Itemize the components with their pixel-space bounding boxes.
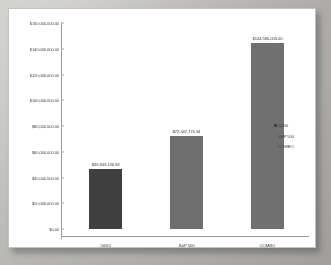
y-axis-tick-label: $100,000,000.00 [30, 98, 59, 103]
y-axis-tick-label: $40,000,000.00 [32, 175, 59, 180]
y-axis-tick-mark [61, 126, 64, 127]
legend-item[interactable]: 50/50 [274, 123, 310, 128]
bar-50-50[interactable] [89, 169, 122, 229]
legend-swatch-icon [274, 145, 277, 148]
bar-group: $72,447,176.34S&P 500 [170, 23, 203, 239]
y-axis-tick-label: $120,000,000.00 [30, 72, 59, 77]
x-axis-category-label: S&P 500 [178, 243, 194, 248]
y-axis-tick-label: $160,000,000.00 [30, 21, 59, 26]
plot-area: $46,943,136.5950/50$72,447,176.34S&P 500… [62, 23, 309, 239]
chart-card: $0.00$20,000,000.00$40,000,000.00$60,000… [8, 8, 316, 248]
bar-group: $46,943,136.5950/50 [89, 23, 122, 239]
x-axis-category-label: 50/50 [100, 243, 110, 248]
y-axis-tick-label: $0.00 [49, 227, 59, 232]
chart-legend: 50/50S&P 500COMBO [274, 123, 310, 155]
legend-item-label: 50/50 [279, 123, 289, 128]
y-axis-tick-mark [61, 100, 64, 101]
legend-item-label: COMBO [279, 144, 294, 149]
legend-item[interactable]: S&P 500 [274, 134, 310, 139]
y-axis: $0.00$20,000,000.00$40,000,000.00$60,000… [13, 17, 61, 239]
bar-value-label: $72,447,176.34 [173, 129, 201, 134]
legend-item-label: S&P 500 [279, 134, 294, 139]
y-axis-tick-label: $60,000,000.00 [32, 149, 59, 154]
bar-value-label: $144,586,005.00 [252, 36, 282, 41]
y-axis-tick-label: $20,000,000.00 [32, 201, 59, 206]
legend-swatch-icon [274, 124, 277, 127]
y-axis-tick-mark [61, 229, 64, 230]
y-axis-tick-mark [61, 151, 64, 152]
x-axis-category-label: COMBO [260, 243, 276, 248]
y-axis-tick-mark [61, 74, 64, 75]
y-axis-tick-mark [61, 203, 64, 204]
y-axis-tick-mark [61, 177, 64, 178]
bar-s-p-500[interactable] [170, 136, 203, 229]
y-axis-tick-mark [61, 48, 64, 49]
legend-item[interactable]: COMBO [274, 144, 310, 149]
y-axis-tick-label: $140,000,000.00 [30, 46, 59, 51]
chart-plot-wrapper: $0.00$20,000,000.00$40,000,000.00$60,000… [9, 9, 315, 247]
y-axis-tick-label: $80,000,000.00 [32, 124, 59, 129]
legend-swatch-icon [274, 135, 277, 138]
y-axis-tick-mark [61, 23, 64, 24]
bar-value-label: $46,943,136.59 [92, 162, 120, 167]
